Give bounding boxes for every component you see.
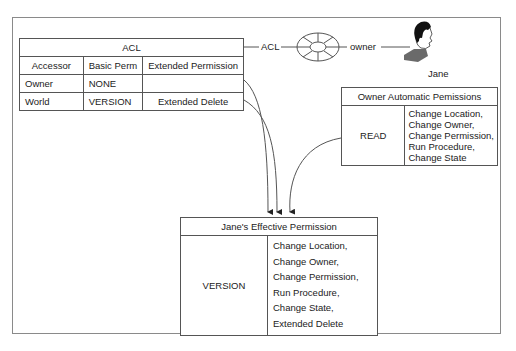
permission-item: Extended Delete (273, 316, 372, 332)
owner-auto-basic: READ (342, 106, 405, 166)
extended-perm-cell: Extended Delete (143, 93, 244, 111)
extended-perm-cell (143, 75, 244, 93)
permission-item: Run Procedure, (273, 285, 372, 301)
acl-wheel-icon (297, 33, 339, 61)
effective-permission-table: Jane's Effective Permission VERSION Chan… (180, 217, 378, 336)
col-header-basic-perm: Basic Perm (83, 57, 143, 75)
permission-item: Run Procedure, (408, 141, 494, 152)
permission-item: Change Location, (408, 108, 494, 119)
owner-auto-title: Owner Automatic Pemissions (342, 88, 498, 106)
owner-automatic-permissions-table: Owner Automatic Pemissions READ Change L… (341, 87, 498, 166)
permission-item: Change State, (273, 300, 372, 316)
owner-connector-label: owner (348, 41, 378, 52)
effective-title: Jane's Effective Permission (181, 218, 378, 236)
acl-connector-label: ACL (259, 41, 281, 52)
person-name: Jane (426, 68, 451, 79)
acl-table-title: ACL (20, 39, 244, 57)
permission-item: Change Owner, (408, 119, 494, 130)
permission-item: Change State (408, 152, 494, 163)
effective-basic: VERSION (181, 236, 268, 336)
basic-perm-cell: VERSION (83, 93, 143, 111)
owner-auto-extended-list: Change Location, Change Owner, Change Pe… (405, 106, 498, 166)
permission-item: Change Owner, (273, 254, 372, 270)
permission-item: Change Permission, (408, 130, 494, 141)
col-header-extended-permission: Extended Permission (143, 57, 244, 75)
permission-item: Change Permission, (273, 269, 372, 285)
accessor-cell: World (20, 93, 84, 111)
basic-perm-cell: NONE (83, 75, 143, 93)
col-header-accessor: Accessor (20, 57, 84, 75)
permission-item: Change Location, (273, 238, 372, 254)
table-row: Owner NONE (20, 75, 244, 93)
accessor-cell: Owner (20, 75, 84, 93)
table-row: World VERSION Extended Delete (20, 93, 244, 111)
person-icon (404, 22, 432, 62)
acl-table: ACL Accessor Basic Perm Extended Permiss… (19, 38, 244, 111)
effective-extended-list: Change Location, Change Owner, Change Pe… (268, 236, 378, 336)
